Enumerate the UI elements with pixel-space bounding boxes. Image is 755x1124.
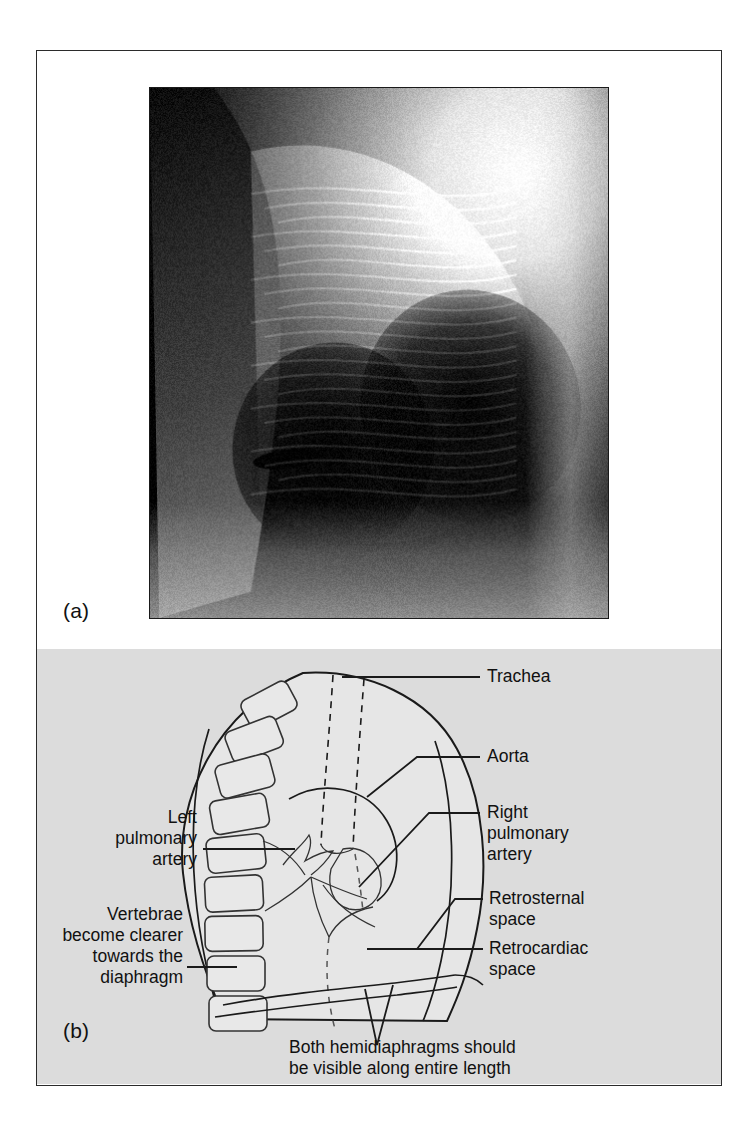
panel-a-tag: (a) (63, 599, 89, 623)
vertebra-body (204, 875, 264, 913)
xray-image (150, 88, 608, 618)
xray-image-frame (149, 87, 609, 619)
figure-root: (a) .ln { fill:none; stroke:#1a1a1a; str… (0, 0, 755, 1124)
label-right-pulmonary-artery: Right pulmonary artery (487, 802, 569, 865)
vertebra-body (205, 833, 266, 874)
label-retrosternal-space: Retrosternal space (489, 888, 584, 930)
label-left-pulmonary-artery: Left pulmonary artery (55, 807, 197, 870)
vertebra-body (205, 915, 264, 951)
label-trachea: Trachea (487, 666, 551, 687)
panel-a-radiograph: (a) (37, 51, 721, 649)
vertebra-body (207, 956, 265, 991)
panel-b-diagram: .ln { fill:none; stroke:#1a1a1a; stroke-… (37, 649, 721, 1084)
label-vertebrae-note: Vertebrae become clearer towards the dia… (45, 904, 183, 988)
label-aorta: Aorta (487, 746, 529, 767)
figure-outer-frame: (a) .ln { fill:none; stroke:#1a1a1a; str… (36, 50, 722, 1086)
panel-b-tag: (b) (63, 1019, 89, 1043)
label-retrocardiac-space: Retrocardiac space (489, 938, 588, 980)
label-hemidiaphragm-note: Both hemidiaphragms should be visible al… (289, 1037, 516, 1079)
